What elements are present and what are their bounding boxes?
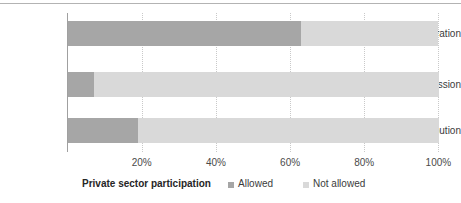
- x-tick-label-20: 20%: [122, 157, 162, 168]
- legend-title: Private sector participation: [82, 178, 211, 189]
- bar-segment-generation-not-allowed: [301, 21, 438, 46]
- x-tick-label-60: 60%: [270, 157, 310, 168]
- bar-segment-transmission-allowed: [68, 72, 94, 97]
- x-tick-label-40: 40%: [196, 157, 236, 168]
- x-tick-label-80: 80%: [344, 157, 384, 168]
- bar-segment-transmission-not-allowed: [94, 72, 439, 97]
- legend-label-not-allowed: Not allowed: [313, 178, 365, 189]
- legend-label-allowed: Allowed: [238, 178, 273, 189]
- chart-legend: Private sector participation Allowed Not…: [0, 178, 461, 194]
- bar-segment-distribution-allowed: [68, 118, 139, 143]
- bar-row-transmission: [68, 72, 439, 97]
- legend-swatch-allowed-icon: [228, 182, 234, 188]
- bar-segment-generation-allowed: [68, 21, 302, 46]
- stacked-bar-chart: Generation Transmission Distribution 20%…: [0, 0, 461, 203]
- top-divider-rule: [0, 3, 461, 4]
- bar-row-distribution: [68, 118, 439, 143]
- x-tick-label-100: 100%: [418, 157, 458, 168]
- bar-segment-distribution-not-allowed: [138, 118, 439, 143]
- bar-row-generation: [68, 21, 439, 46]
- legend-swatch-not-allowed-icon: [303, 182, 309, 188]
- plot-area: [68, 13, 439, 152]
